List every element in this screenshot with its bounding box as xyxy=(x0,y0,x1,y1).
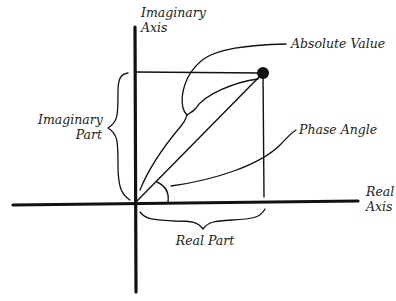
complex-point-marker xyxy=(257,67,269,79)
real-axis-label-line1: Real xyxy=(366,184,394,199)
phase-angle-arc xyxy=(157,182,168,202)
absolute-value-leader xyxy=(182,44,286,115)
imaginary-axis-label-line2: Axis xyxy=(141,20,206,35)
real-axis-label-line2: Axis xyxy=(366,199,394,214)
phase-angle-leader xyxy=(171,130,296,186)
imaginary-axis-label: Imaginary Axis xyxy=(141,5,206,35)
real-projection-line xyxy=(263,73,264,197)
imaginary-part-label-line2: Part xyxy=(38,127,102,142)
imaginary-projection-line xyxy=(136,72,262,73)
real-part-brace xyxy=(140,209,265,229)
complex-plane-diagram: Imaginary Axis Absolute Value Imaginary … xyxy=(0,0,396,301)
magnitude-vector xyxy=(136,73,263,202)
real-axis-label: Real Axis xyxy=(366,184,394,214)
imaginary-part-label: Imaginary Part xyxy=(38,112,102,142)
imaginary-axis-line xyxy=(135,27,136,292)
imaginary-part-label-line1: Imaginary xyxy=(38,112,102,127)
real-axis-line xyxy=(13,201,358,205)
absolute-value-label: Absolute Value xyxy=(291,36,385,51)
imaginary-part-brace xyxy=(108,73,130,200)
real-part-label: Real Part xyxy=(170,233,240,248)
imaginary-axis-label-line1: Imaginary xyxy=(141,5,206,20)
phase-angle-label: Phase Angle xyxy=(299,122,377,137)
